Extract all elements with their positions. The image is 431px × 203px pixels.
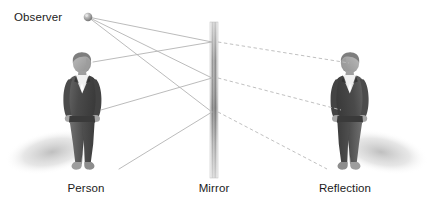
mirror [210,22,218,178]
mirror-reflection-diagram: Observer Person Mirror Reflection [0,0,431,203]
ray-observer-to-mirror-head [88,17,212,42]
label-person: Person [67,182,104,194]
incident-rays [88,17,212,169]
label-observer: Observer [14,11,62,23]
diagram-canvas: Observer Person Mirror Reflection [0,0,431,203]
virtual-rays [218,42,349,169]
virtual-ray-foot [218,112,327,169]
mirror-vertical-sheen [210,22,218,178]
observer-point [84,13,93,22]
virtual-ray-head [218,42,349,63]
ray-observer-to-mirror-torso [88,17,212,78]
ray-observer-to-mirror-foot [88,17,212,112]
virtual-ray-hand [218,78,341,110]
ray-mirror-to-person-foot [119,112,212,169]
ray-mirror-to-person-head [93,42,212,62]
label-reflection: Reflection [319,182,371,194]
ray-mirror-to-person-hand [101,78,212,110]
label-mirror: Mirror [199,182,230,194]
